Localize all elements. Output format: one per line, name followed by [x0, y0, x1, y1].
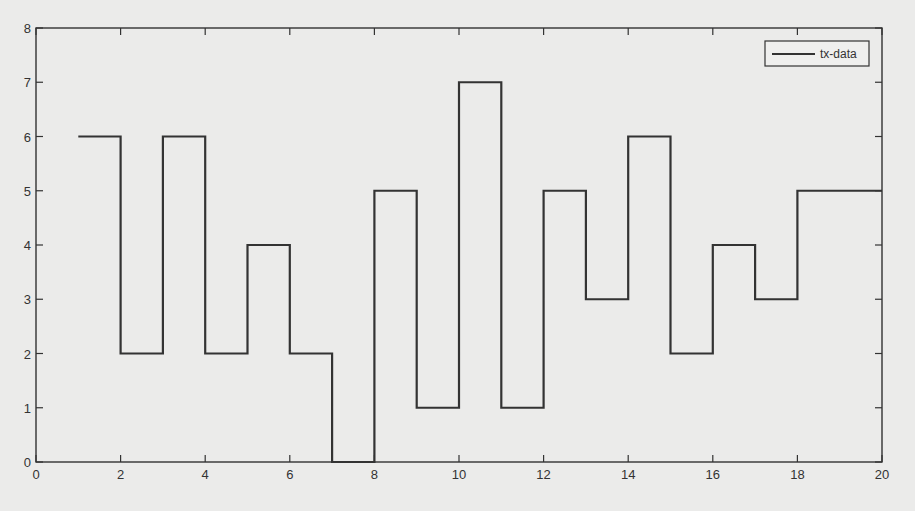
tx-data-line [78, 82, 882, 462]
x-tick-label: 12 [536, 467, 550, 482]
x-tick-label: 18 [790, 467, 804, 482]
y-tick-label: 5 [24, 184, 31, 199]
y-tick-label: 4 [24, 238, 31, 253]
y-tick-label: 6 [24, 130, 31, 145]
y-tick-label: 7 [24, 75, 31, 90]
x-axis: 02468101214161820 [32, 28, 889, 482]
y-tick-label: 8 [24, 21, 31, 36]
y-tick-label: 1 [24, 401, 31, 416]
x-tick-label: 10 [452, 467, 466, 482]
y-tick-label: 0 [24, 455, 31, 470]
x-tick-label: 6 [286, 467, 293, 482]
legend-label: tx-data [820, 47, 857, 61]
x-tick-label: 16 [706, 467, 720, 482]
x-tick-label: 20 [875, 467, 889, 482]
x-tick-label: 2 [117, 467, 124, 482]
x-tick-label: 4 [202, 467, 209, 482]
x-tick-label: 8 [371, 467, 378, 482]
x-tick-label: 14 [621, 467, 635, 482]
x-tick-label: 0 [32, 467, 39, 482]
y-tick-label: 3 [24, 292, 31, 307]
legend: tx-data [765, 41, 869, 66]
step-chart: 02468101214161820 012345678 tx-data [0, 0, 915, 511]
y-tick-label: 2 [24, 347, 31, 362]
